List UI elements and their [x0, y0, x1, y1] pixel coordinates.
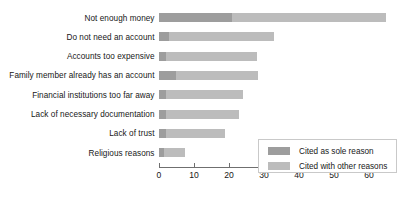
category-label: Do not need an account	[66, 33, 154, 42]
bar-row	[159, 71, 259, 80]
bar-segment-sole-reason	[159, 71, 177, 80]
bar-row	[159, 110, 240, 119]
bar-segment-sole-reason	[159, 129, 166, 138]
bar-chart: Not enough moneyDo not need an accountAc…	[0, 0, 405, 202]
bar-segment-sole-reason	[159, 52, 166, 61]
legend-swatch-other-reasons	[268, 162, 290, 170]
bar-segment-sole-reason	[159, 90, 166, 99]
category-label: Accounts too expensive	[67, 52, 155, 61]
bar-row	[159, 129, 226, 138]
bar-row	[159, 32, 275, 41]
category-label: Lack of trust	[109, 129, 154, 138]
bar-segment-other-reasons	[176, 71, 258, 80]
x-axis-tick	[229, 163, 230, 167]
category-label: Religious reasons	[89, 149, 155, 158]
category-label: Financial institutions too far away	[32, 91, 154, 100]
bar-segment-other-reasons	[166, 90, 243, 99]
x-axis-tick-label: 0	[157, 170, 162, 180]
bar-segment-sole-reason	[159, 13, 233, 22]
bar-segment-other-reasons	[232, 13, 386, 22]
legend: Cited as sole reasonCited with other rea…	[258, 139, 397, 173]
bar-row	[159, 52, 257, 61]
bar-segment-other-reasons	[166, 129, 226, 138]
legend-label: Cited with other reasons	[299, 162, 387, 171]
legend-item: Cited as sole reason	[268, 146, 374, 156]
x-axis-tick	[194, 163, 195, 167]
bar-row	[159, 148, 185, 157]
bar-segment-sole-reason	[159, 110, 166, 119]
bar-segment-other-reasons	[166, 52, 257, 61]
bar-segment-sole-reason	[159, 32, 170, 41]
legend-item: Cited with other reasons	[268, 161, 387, 171]
x-axis-tick	[159, 163, 160, 167]
x-axis-tick-label: 20	[224, 170, 234, 180]
bar-row	[159, 90, 243, 99]
legend-swatch-sole-reason	[268, 147, 290, 155]
bar-segment-other-reasons	[169, 32, 274, 41]
x-axis-tick-label: 10	[189, 170, 199, 180]
category-label: Family member already has an account	[9, 71, 154, 80]
bar-row	[159, 13, 387, 22]
bar-segment-other-reasons	[166, 110, 240, 119]
bar-segment-other-reasons	[164, 148, 185, 157]
category-label: Not enough money	[85, 14, 155, 23]
legend-label: Cited as sole reason	[299, 147, 374, 156]
category-label: Lack of necessary documentation	[31, 110, 155, 119]
